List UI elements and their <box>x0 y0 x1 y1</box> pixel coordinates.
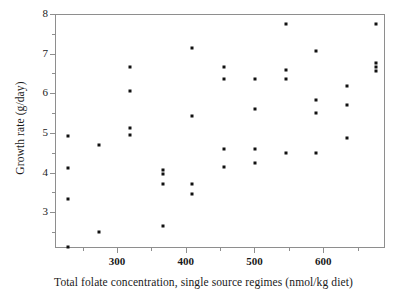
data-point <box>285 78 288 81</box>
data-point <box>191 115 194 118</box>
data-point <box>223 148 226 151</box>
data-point <box>223 65 226 68</box>
data-point <box>67 246 70 249</box>
data-point <box>191 182 194 185</box>
data-point <box>314 152 317 155</box>
data-point <box>223 78 226 81</box>
x-axis-tick-label: 500 <box>234 255 274 267</box>
y-axis-tick-label: 5 <box>34 127 48 138</box>
x-axis-tick-label: 300 <box>97 255 137 267</box>
data-point <box>67 166 70 169</box>
data-point <box>285 68 288 71</box>
data-point <box>161 182 164 185</box>
data-point <box>254 148 257 151</box>
data-point <box>97 231 100 234</box>
data-point <box>161 173 164 176</box>
y-axis-tick-label-wrap: 3 <box>30 206 48 218</box>
data-point <box>374 22 377 25</box>
data-point <box>314 99 317 102</box>
data-point <box>129 90 132 93</box>
data-point <box>374 70 377 73</box>
data-point <box>67 198 70 201</box>
data-point <box>191 46 194 49</box>
data-point <box>97 144 100 147</box>
data-point <box>285 22 288 25</box>
data-point <box>129 133 132 136</box>
y-axis-tick-label-wrap: 5 <box>30 127 48 139</box>
y-axis-tick-label-wrap: 8 <box>30 8 48 20</box>
x-axis-title: Total folate concentration, single sourc… <box>0 276 407 288</box>
data-point <box>191 193 194 196</box>
y-axis-tick-label-wrap: 7 <box>30 48 48 60</box>
data-point <box>345 104 348 107</box>
x-axis-minor-tick <box>83 248 84 251</box>
x-axis-tick <box>186 248 187 253</box>
x-axis-tick <box>117 248 118 253</box>
data-point <box>161 225 164 228</box>
data-point <box>345 136 348 139</box>
x-axis-tick-label: 400 <box>166 255 206 267</box>
data-point <box>345 84 348 87</box>
x-axis-minor-tick <box>220 248 221 251</box>
data-point <box>254 161 257 164</box>
y-axis-tick-label: 4 <box>34 167 48 178</box>
data-point <box>161 169 164 172</box>
data-point <box>314 112 317 115</box>
y-axis-tick-label: 6 <box>34 87 48 98</box>
x-axis-minor-tick <box>289 248 290 251</box>
plot-area <box>55 14 385 248</box>
y-axis-tick-label: 7 <box>34 48 48 59</box>
y-axis-tick-label: 8 <box>34 8 48 19</box>
data-point <box>285 152 288 155</box>
y-axis-tick-label-wrap: 4 <box>30 167 48 179</box>
x-axis-minor-tick <box>358 248 359 251</box>
scatter-chart-figure: Growth rate (g/day) 345678 300400500600 … <box>0 0 407 295</box>
data-point <box>314 50 317 53</box>
y-axis-tick-label: 3 <box>34 206 48 217</box>
x-axis-tick <box>254 248 255 253</box>
x-axis-minor-tick <box>151 248 152 251</box>
data-point <box>67 134 70 137</box>
y-axis-title: Growth rate (g/day) <box>14 8 30 248</box>
data-points-layer <box>56 15 384 247</box>
x-axis-tick <box>323 248 324 253</box>
data-point <box>223 165 226 168</box>
data-point <box>129 127 132 130</box>
y-axis-tick-label-wrap: 6 <box>30 87 48 99</box>
data-point <box>129 65 132 68</box>
data-point <box>374 65 377 68</box>
data-point <box>254 78 257 81</box>
data-point <box>254 108 257 111</box>
x-axis-tick-label: 600 <box>303 255 343 267</box>
